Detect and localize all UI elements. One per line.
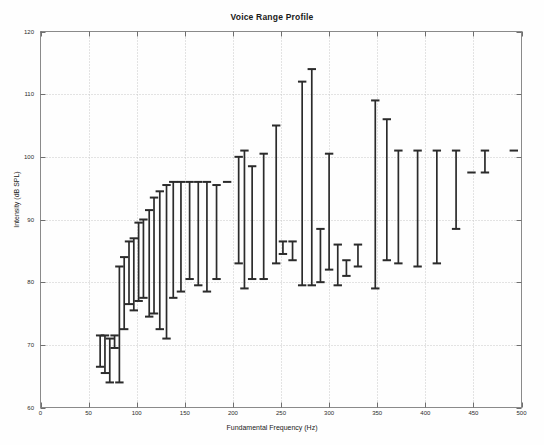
range-bar (259, 154, 267, 279)
x-tick-label: 100 (132, 410, 142, 416)
range-bar (125, 241, 133, 304)
range-bar (452, 151, 460, 229)
range-bar (240, 151, 248, 289)
x-tick-label: 50 (85, 410, 92, 416)
range-bar (156, 191, 164, 329)
range-bar (145, 210, 153, 317)
range-bar (272, 126, 280, 264)
plot-area (0, 0, 544, 445)
x-tick-label: 450 (468, 410, 478, 416)
range-bars (96, 69, 518, 382)
range-bar (96, 335, 104, 366)
range-bar (139, 220, 147, 298)
axes-box (41, 32, 522, 408)
range-bar (394, 151, 402, 264)
range-bar (288, 241, 296, 260)
x-tick-label: 0 (39, 410, 42, 416)
x-tick-label: 250 (276, 410, 286, 416)
range-bar (203, 182, 211, 292)
range-bar (316, 229, 324, 282)
range-bar (325, 154, 333, 270)
range-bar (383, 119, 391, 260)
range-bar (279, 241, 287, 254)
range-bar (120, 257, 128, 329)
y-tick-label: 80 (8, 279, 34, 285)
range-bar (169, 182, 177, 298)
y-tick-label: 110 (8, 91, 34, 97)
range-bar (371, 100, 379, 288)
figure-canvas: Voice Range Profile 05010015020025030035… (0, 0, 544, 445)
range-bar (354, 245, 362, 267)
range-bar (342, 260, 350, 276)
range-bar (212, 185, 220, 279)
x-tick-label: 150 (180, 410, 190, 416)
range-bar (110, 335, 118, 348)
range-bar (162, 185, 170, 339)
y-tick-label: 60 (8, 405, 34, 411)
x-axis-label: Fundamental Frequency (Hz) (0, 424, 544, 431)
range-bar (115, 267, 123, 383)
range-bar (130, 238, 138, 310)
range-bar (234, 157, 242, 264)
x-tick-label: 200 (228, 410, 238, 416)
range-bar (185, 182, 193, 279)
x-tick-label: 500 (516, 410, 526, 416)
range-bar (481, 151, 489, 173)
range-bar (177, 182, 185, 292)
range-bar (150, 198, 158, 314)
x-tick-label: 400 (420, 410, 430, 416)
range-bar (433, 151, 441, 264)
y-axis-label: Intensity (dB SPL) (13, 140, 20, 260)
x-tick-label: 300 (324, 410, 334, 416)
range-bar (298, 82, 306, 286)
range-bar (308, 69, 316, 285)
y-tick-label: 120 (8, 29, 34, 35)
y-tick-label: 70 (8, 342, 34, 348)
range-bar (413, 151, 421, 267)
range-bar (194, 182, 202, 285)
range-bar (248, 166, 256, 279)
range-bar (334, 245, 342, 286)
range-bar (134, 223, 142, 301)
gridlines (41, 32, 522, 408)
x-tick-label: 350 (372, 410, 382, 416)
